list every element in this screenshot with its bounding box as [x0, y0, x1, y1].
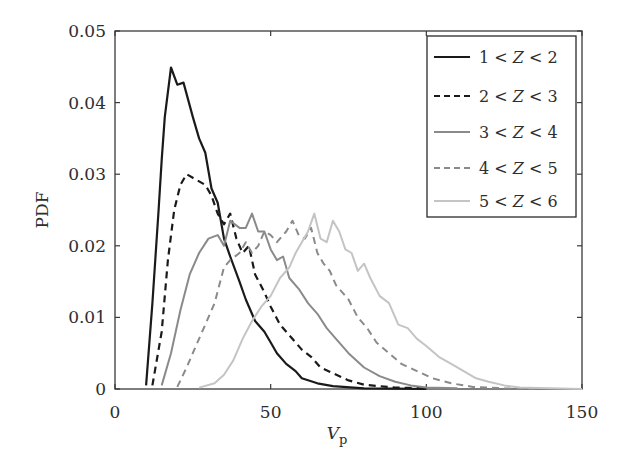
legend-label: 1 < Z < 2 — [479, 48, 558, 67]
y-tick-label: 0.05 — [68, 21, 106, 41]
pdf-line-chart: 05010015000.010.020.030.040.05 Vp PDF 1 … — [0, 0, 622, 463]
legend: 1 < Z < 22 < Z < 33 < Z < 44 < Z < 55 < … — [427, 36, 576, 217]
legend-label: 4 < Z < 5 — [479, 159, 558, 178]
x-tick-label: 0 — [110, 402, 121, 422]
y-tick-label: 0.02 — [68, 236, 106, 256]
y-tick-label: 0.01 — [68, 307, 106, 327]
x-tick-label: 150 — [566, 402, 598, 422]
x-tick-label: 100 — [410, 402, 442, 422]
legend-label: 2 < Z < 3 — [479, 87, 558, 106]
y-tick-label: 0 — [95, 379, 106, 399]
x-tick-label: 50 — [260, 402, 282, 422]
y-tick-label: 0.04 — [68, 93, 106, 113]
y-axis-label: PDF — [32, 191, 52, 228]
legend-label: 5 < Z < 6 — [479, 192, 558, 211]
x-axis-label: Vp — [327, 423, 348, 447]
y-tick-label: 0.03 — [68, 164, 106, 184]
legend-label: 3 < Z < 4 — [479, 123, 558, 142]
